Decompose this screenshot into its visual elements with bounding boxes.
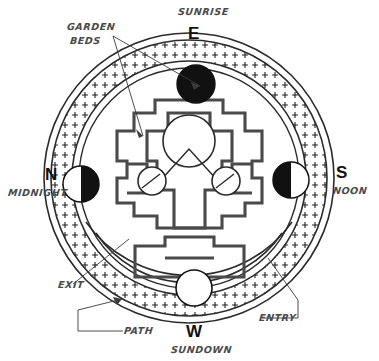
full-moon-west-marker xyxy=(176,270,212,306)
label-sunrise: SUNRISE xyxy=(177,6,229,17)
garden-plan-figure: SUNRISE E S NOON W SUNDOWN N MIDNIGHT GA… xyxy=(0,0,379,361)
label-noon: NOON xyxy=(332,185,368,196)
label-entry: ENTRY xyxy=(258,312,296,323)
label-path: PATH xyxy=(123,325,154,336)
label-garden-beds-line2: BEDS xyxy=(69,35,101,46)
label-garden-beds-line1: GARDEN xyxy=(66,21,116,32)
cardinal-east: E xyxy=(188,24,199,44)
label-sundown: SUNDOWN xyxy=(170,344,232,355)
cardinal-north: N xyxy=(45,165,57,185)
half-moon-north-marker xyxy=(63,166,99,202)
cardinal-west: W xyxy=(186,322,202,342)
half-moon-south-marker xyxy=(273,162,309,198)
cardinal-south: S xyxy=(336,163,347,183)
label-exit: EXIT xyxy=(57,279,84,290)
central-circle xyxy=(163,115,215,167)
label-midnight: MIDNIGHT xyxy=(7,187,68,198)
